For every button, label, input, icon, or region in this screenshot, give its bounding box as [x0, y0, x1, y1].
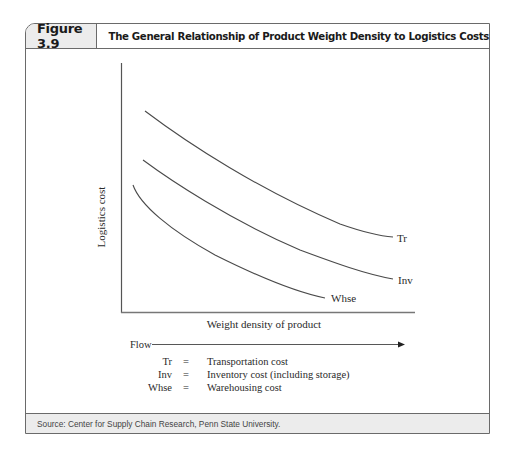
legend-desc: Transportation cost	[207, 356, 288, 367]
legend: Tr = Transportation cost Inv = Inventory…	[148, 356, 350, 393]
curve-tr	[145, 111, 393, 237]
legend-desc: Warehousing cost	[207, 382, 282, 393]
legend-eq: =	[183, 382, 189, 393]
legend-abbr: Tr	[162, 356, 172, 367]
flow-arrowhead-icon	[398, 342, 405, 348]
y-axis-label: Logistics cost	[95, 187, 107, 248]
curve-inv	[143, 160, 393, 279]
curve-whse	[133, 185, 325, 298]
chart-canvas: Logistics cost Tr Inv Whse Weight densit…	[0, 0, 519, 457]
legend-desc: Inventory cost (including storage)	[207, 369, 350, 381]
x-axis-label: Weight density of product	[207, 318, 321, 330]
legend-eq: =	[183, 356, 189, 367]
legend-abbr: Whse	[148, 382, 172, 393]
curve-label-whse: Whse	[331, 292, 356, 304]
legend-abbr: Inv	[158, 369, 173, 380]
curve-label-inv: Inv	[398, 274, 413, 286]
legend-eq: =	[183, 369, 189, 380]
curve-label-tr: Tr	[397, 232, 407, 244]
flow-label: Flow	[130, 339, 152, 350]
